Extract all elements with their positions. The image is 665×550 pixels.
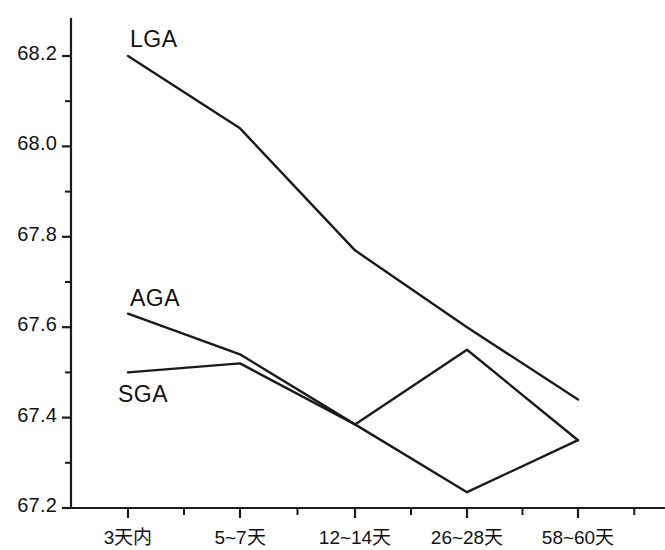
series-line-aga	[128, 314, 578, 441]
chart-plot-area	[0, 0, 665, 550]
y-axis-tick-label: 67.4	[17, 404, 57, 427]
line-chart: 67.267.467.667.868.068.2 3天内5~7天12~14天26…	[0, 0, 665, 550]
series-line-sga	[128, 363, 578, 492]
series-line-lga	[128, 56, 578, 400]
series-label-sga: SGA	[118, 381, 168, 408]
y-axis-tick-label: 67.6	[17, 313, 57, 336]
y-axis-tick-label: 68.2	[17, 42, 57, 65]
y-axis-tick-label: 67.2	[17, 494, 57, 517]
series-label-aga: AGA	[130, 285, 180, 312]
series-label-lga: LGA	[130, 26, 178, 53]
x-axis-tick-label: 58~60天	[508, 522, 648, 549]
y-axis-tick-label: 68.0	[17, 132, 57, 155]
y-axis-tick-label: 67.8	[17, 223, 57, 246]
